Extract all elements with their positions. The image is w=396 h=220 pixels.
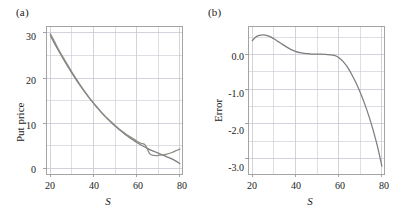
panel-a-xtick-20: 20 — [40, 180, 60, 191]
panel-b-xlabel: S — [298, 195, 322, 207]
panel-b-xtick-40: 40 — [286, 180, 306, 191]
panel-b-ytick-m1: -1.0 — [208, 88, 244, 99]
panel-b-xtick-60: 60 — [330, 180, 350, 191]
figure-container: (a) Put price 0 10 20 30 20 40 60 80 S (… — [0, 0, 396, 220]
panel-b-ytick-m2: -2.0 — [208, 125, 244, 136]
panel-b-ytick-0: 0.0 — [212, 51, 244, 62]
panel-a-ytick-10: 10 — [6, 120, 36, 131]
panel-b-xtick-20: 20 — [242, 180, 262, 191]
panel-a: (a) Put price 0 10 20 30 20 40 60 80 S — [0, 0, 198, 220]
panel-a-xtick-60: 60 — [128, 180, 148, 191]
panel-a-xlabel: S — [96, 195, 120, 207]
panel-a-ytick-0: 0 — [12, 164, 36, 175]
panel-a-ytick-20: 20 — [6, 75, 36, 86]
panel-a-xtick-80: 80 — [172, 180, 192, 191]
panel-b: (b) Error 0.0 -1.0 -2.0 -3.0 20 40 60 80… — [198, 0, 396, 220]
panel-b-ytick-m3: -3.0 — [208, 162, 244, 173]
panel-a-ytick-30: 30 — [6, 31, 36, 42]
panel-a-xtick-40: 40 — [84, 180, 104, 191]
panel-b-xtick-80: 80 — [374, 180, 394, 191]
